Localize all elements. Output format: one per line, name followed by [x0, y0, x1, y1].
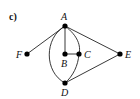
node-label-f: F [15, 49, 23, 60]
node-b [62, 51, 67, 56]
edge-d-e [65, 54, 120, 83]
node-a [62, 23, 67, 28]
node-c [76, 51, 81, 56]
node-label-b: B [61, 58, 67, 69]
node-label-a: A [60, 11, 68, 22]
node-label-c: C [84, 49, 91, 60]
node-f [24, 51, 29, 56]
node-label-e: E [124, 49, 131, 60]
panel-label: c) [9, 11, 17, 23]
graph-diagram: c) A B C D E F [0, 0, 140, 99]
node-e [117, 51, 122, 56]
node-label-d: D [60, 87, 69, 98]
edge-a-e [65, 26, 120, 54]
node-d [62, 80, 67, 85]
